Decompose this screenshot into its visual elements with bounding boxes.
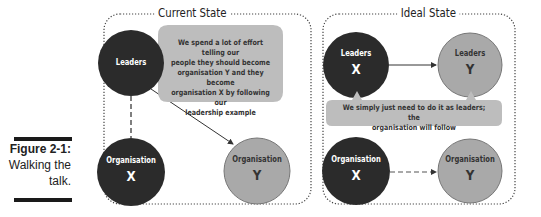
ideal-leaders-x-label: Leaders X xyxy=(326,49,386,77)
current-state-title: Current State xyxy=(155,6,230,20)
current-leaders-label: Leaders xyxy=(106,58,157,68)
ideal-org-x-label: Organisation X xyxy=(326,155,386,183)
current-org-y-label: Organisation Y xyxy=(227,155,287,183)
current-state-bubble-text: We spend a lot of effort telling our peo… xyxy=(167,38,273,118)
ideal-state-title: Ideal State xyxy=(397,6,459,20)
ideal-state-bubble-text: We simply just need to do it as leaders;… xyxy=(339,103,489,133)
ideal-leaders-y-label: Leaders Y xyxy=(440,49,500,77)
ideal-org-y-label: Organisation Y xyxy=(440,155,500,183)
current-org-x-label: Organisation X xyxy=(101,156,161,184)
